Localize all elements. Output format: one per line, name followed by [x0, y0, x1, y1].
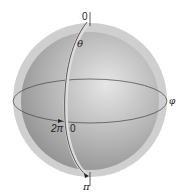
label-phi: φ: [169, 96, 176, 106]
label-pi: π: [82, 181, 90, 192]
label-top-zero: 0: [82, 11, 88, 22]
inner-sphere: [21, 32, 159, 170]
sphere-diagram: 0 θ 2π 0 π φ: [0, 0, 190, 195]
label-theta: θ: [77, 38, 83, 49]
label-two-pi: 2π: [50, 123, 64, 134]
label-equator-zero: 0: [70, 123, 76, 134]
